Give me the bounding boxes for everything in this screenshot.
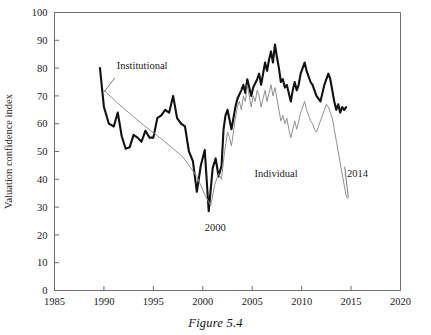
y-tick-label-30: 30	[37, 202, 48, 213]
x-tick-labels: 19851990199520002005201020152020	[44, 296, 411, 307]
y-axis-title: Valuation confidence index	[3, 93, 14, 209]
y-tick-label-60: 60	[37, 118, 48, 129]
x-tick-label-2010: 2010	[291, 296, 312, 307]
figure-caption: Figure 5.4	[0, 316, 431, 331]
chart-canvas: 19851990199520002005201020152020 0102030…	[0, 0, 431, 335]
x-tick-label-2005: 2005	[242, 296, 263, 307]
axis-group	[55, 13, 401, 291]
y-tick-label-70: 70	[37, 91, 48, 102]
x-tick-label-2020: 2020	[390, 296, 411, 307]
trough-year-label: 2000	[205, 222, 226, 233]
y-tick-label-90: 90	[37, 35, 48, 46]
y-tick-label-40: 40	[37, 174, 48, 185]
plot-frame	[55, 13, 401, 291]
y-tick-label-0: 0	[42, 285, 47, 296]
x-tick-label-1990: 1990	[93, 296, 114, 307]
y-axis-title-group: Valuation confidence index	[3, 93, 14, 209]
institutional-label: Institutional	[117, 60, 168, 71]
y-tick-label-100: 100	[32, 7, 48, 18]
tick-marks-group	[55, 13, 401, 291]
y-tick-labels: 0102030405060708090100	[32, 7, 48, 296]
x-tick-label-2015: 2015	[341, 296, 362, 307]
y-tick-label-50: 50	[37, 146, 48, 157]
institutional-leader-line	[104, 78, 114, 92]
y-tick-label-80: 80	[37, 63, 48, 74]
end-year-label: 2014	[347, 168, 369, 179]
series-line-institutional	[104, 85, 348, 206]
y-tick-label-10: 10	[37, 257, 48, 268]
individual-label: Individual	[255, 168, 298, 179]
figure-container: 19851990199520002005201020152020 0102030…	[0, 0, 431, 335]
x-tick-label-1985: 1985	[44, 296, 65, 307]
x-tick-label-1995: 1995	[143, 296, 164, 307]
x-tick-label-2000: 2000	[192, 296, 213, 307]
y-tick-label-20: 20	[37, 230, 48, 241]
